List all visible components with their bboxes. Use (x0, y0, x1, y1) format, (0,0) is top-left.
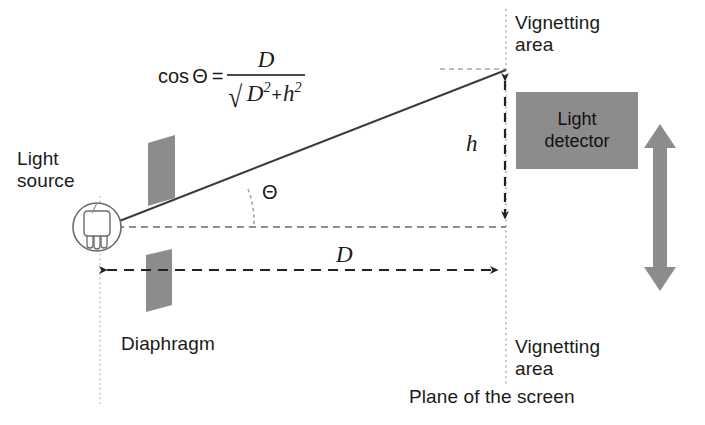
vignetting-top-line2: area (515, 34, 553, 55)
formula-numerator: D (227, 47, 304, 74)
distance-D-label: D (336, 241, 353, 268)
vignetting-area-top-label: Vignettingarea (515, 12, 600, 57)
angle-theta-arc (248, 189, 254, 226)
angle-theta-label: Θ (262, 181, 278, 205)
height-h-label: h (466, 130, 478, 157)
formula-theta-symbol: Θ (192, 65, 211, 88)
light-source-label: Lightsource (17, 148, 75, 193)
diaphragm-blade-upper (148, 135, 175, 206)
diaphragm-label: Diaphragm (121, 333, 215, 355)
light-bulb-icon (73, 203, 121, 251)
detector-label-line2: detector (544, 131, 609, 153)
vignetting-bottom-line2: area (515, 358, 553, 379)
formula-radicand: D2+h2 (243, 79, 305, 107)
formula-fraction: D √ D2+h2 (227, 47, 304, 108)
light-source-label-line2: source (17, 170, 75, 191)
formula-denominator: √ D2+h2 (227, 76, 304, 108)
light-detector-box: Lightdetector (516, 92, 638, 169)
vignetting-bottom-line1: Vignetting (515, 336, 600, 357)
radical-icon: √ (229, 83, 243, 112)
plane-of-screen-label: Plane of the screen (409, 386, 575, 408)
figure-root: cos Θ = D √ D2+h2 Lightsource Diaphragm … (0, 0, 705, 425)
formula-equals: = (211, 65, 228, 88)
double-arrow-vertical-icon (644, 124, 676, 291)
diaphragm-blade-lower (146, 249, 172, 312)
detector-label-line1: Light (557, 109, 596, 131)
vignetting-area-bottom-label: Vignettingarea (515, 336, 600, 381)
cosine-formula: cos Θ = D √ D2+h2 (158, 46, 305, 108)
vignetting-top-line1: Vignetting (515, 12, 600, 33)
formula-lhs: cos (158, 65, 192, 88)
light-source-label-line1: Light (17, 148, 59, 169)
